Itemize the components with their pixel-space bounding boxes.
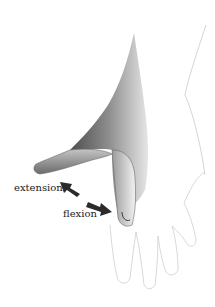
flexion-label: flexion	[63, 209, 97, 219]
hand-drawing	[0, 0, 215, 307]
hand-illustration: extension flexion	[0, 0, 215, 307]
palm	[70, 33, 148, 215]
thumb	[34, 149, 112, 174]
extension-arrow	[60, 182, 80, 197]
wrist-outline	[185, 25, 206, 175]
extension-label: extension	[14, 183, 63, 193]
